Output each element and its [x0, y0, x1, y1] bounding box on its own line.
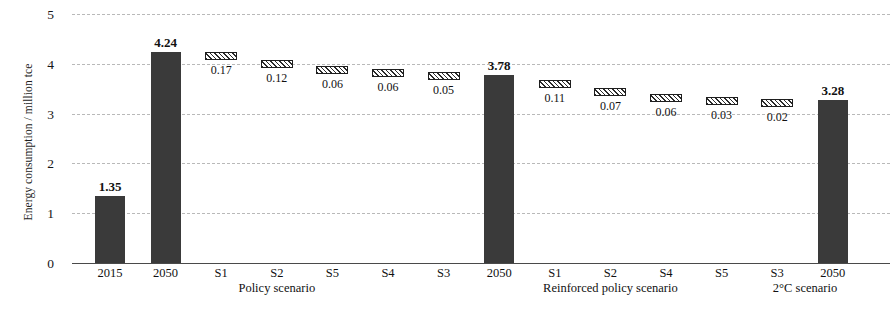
bar-delta-value-label: 0.05 — [414, 84, 474, 96]
bar-delta — [539, 80, 571, 88]
bar-delta — [761, 99, 793, 107]
bar-delta — [205, 52, 237, 60]
x-axis-category-label: S3 — [747, 267, 807, 280]
x-axis-category-label: S2 — [247, 267, 307, 280]
x-axis-group-label: 2°C scenario — [675, 282, 896, 295]
bar-delta — [428, 72, 460, 80]
bar-delta — [594, 88, 626, 96]
gridline — [72, 14, 890, 15]
bar-delta — [316, 66, 348, 74]
bar-delta — [650, 94, 682, 102]
gridline — [72, 213, 890, 214]
bar-delta-value-label: 0.17 — [191, 64, 251, 76]
bar-delta-value-label: 0.06 — [358, 81, 418, 93]
bar-delta-value-label: 0.03 — [692, 109, 752, 121]
bar-total — [818, 100, 848, 263]
x-axis-group-label: Policy scenario — [147, 282, 407, 295]
x-axis-category-label: S5 — [302, 267, 362, 280]
bar-delta-value-label: 0.06 — [302, 78, 362, 90]
x-axis-category-label: S5 — [692, 267, 752, 280]
bar-total-value-label: 3.78 — [469, 59, 529, 72]
y-axis-tick-labels: 012345 — [0, 14, 62, 263]
bar-delta-value-label: 0.07 — [580, 100, 640, 112]
bar-delta — [372, 69, 404, 77]
x-axis-category-label: S3 — [414, 267, 474, 280]
x-axis-category-label: S4 — [358, 267, 418, 280]
x-axis-category-label: S4 — [636, 267, 696, 280]
plot-area: 1.354.240.170.120.060.060.053.780.110.07… — [72, 14, 890, 263]
chart-figure: Energy consumption / million tce 012345 … — [0, 0, 896, 321]
x-axis-category-label: 2050 — [136, 267, 196, 280]
x-axis-category-label: S1 — [525, 267, 585, 280]
y-axis-tick-label: 5 — [14, 8, 54, 22]
bar-delta — [261, 60, 293, 68]
gridline — [72, 163, 890, 164]
bar-delta-value-label: 0.02 — [747, 111, 807, 123]
x-axis-category-label: 2050 — [469, 267, 529, 280]
x-axis-line — [72, 263, 890, 264]
bar-total-value-label: 1.35 — [80, 180, 140, 193]
x-axis-labels: 20152050S1S2S5S4S32050S1S2S4S5S32050Poli… — [0, 267, 896, 321]
bar-delta-value-label: 0.11 — [525, 92, 585, 104]
x-axis-category-label: 2050 — [803, 267, 863, 280]
bar-total — [95, 196, 125, 263]
x-axis-category-label: 2015 — [80, 267, 140, 280]
y-axis-tick-label: 2 — [14, 157, 54, 171]
x-axis-category-label: S2 — [580, 267, 640, 280]
bar-total — [484, 75, 514, 263]
bar-delta-value-label: 0.06 — [636, 106, 696, 118]
bar-delta — [706, 97, 738, 105]
y-axis-tick-label: 4 — [14, 58, 54, 72]
bar-total — [151, 52, 181, 263]
y-axis-tick-label: 1 — [14, 207, 54, 221]
bar-total-value-label: 4.24 — [136, 36, 196, 49]
bar-delta-value-label: 0.12 — [247, 72, 307, 84]
y-axis-tick-label: 3 — [14, 108, 54, 122]
bar-total-value-label: 3.28 — [803, 84, 863, 97]
x-axis-category-label: S1 — [191, 267, 251, 280]
